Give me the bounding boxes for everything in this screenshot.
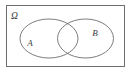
venn-diagram-figure: Ω A B [0, 0, 132, 74]
set-a-label: A [26, 38, 33, 48]
universe-frame [7, 6, 125, 67]
set-b-label: B [92, 28, 98, 38]
universe-label: Ω [11, 11, 18, 21]
venn-diagram-canvas: Ω A B [0, 0, 132, 74]
